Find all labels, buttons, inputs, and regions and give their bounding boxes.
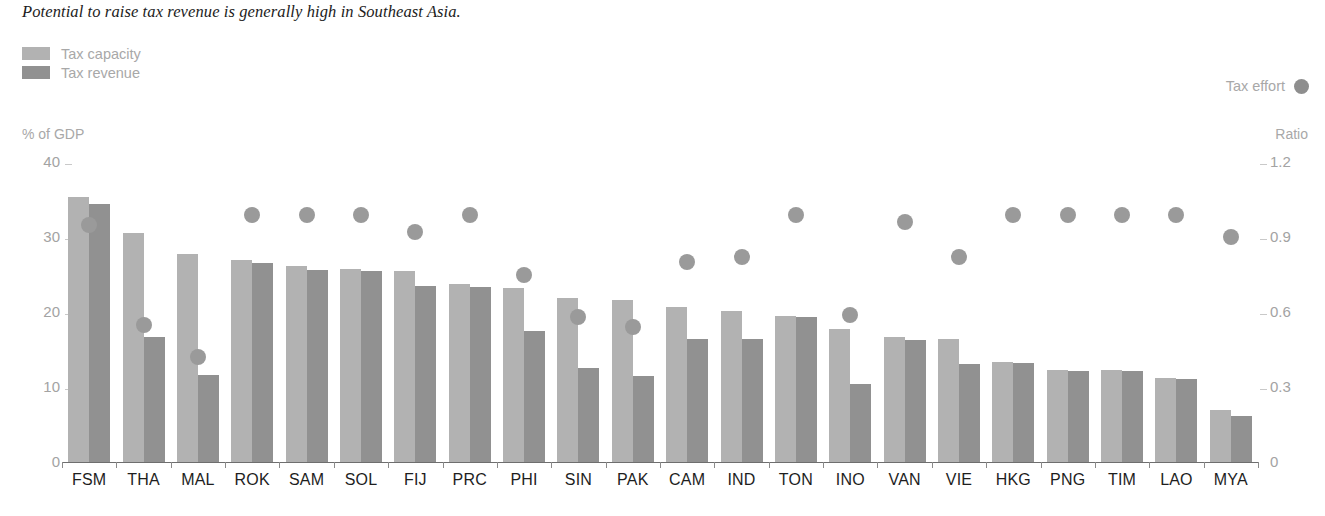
tax-effort-dot: [679, 254, 695, 270]
bar-tax-revenue: [578, 368, 599, 462]
y-axis-tick-label-right: 0: [1270, 454, 1318, 469]
y-axis-tick-label-left: 30: [20, 229, 60, 244]
x-axis-label-sam: SAM: [279, 471, 333, 489]
tax-effort-dot: [842, 307, 858, 323]
tax-effort-dot: [734, 249, 750, 265]
x-axis-tick-mark: [1258, 462, 1259, 468]
bar-tax-capacity: [1047, 370, 1068, 462]
x-axis-tick-mark: [714, 462, 715, 468]
x-axis-label-ton: TON: [769, 471, 823, 489]
bar-tax-revenue: [89, 204, 110, 462]
x-axis-tick-mark: [279, 462, 280, 468]
tax-effort-dot: [1168, 207, 1184, 223]
x-axis-tick-mark: [62, 462, 63, 468]
x-axis-label-tha: THA: [116, 471, 170, 489]
y-axis-tick-label-right: 0.9: [1270, 229, 1318, 244]
tax-effort-dot: [1005, 207, 1021, 223]
x-axis-tick-mark: [334, 462, 335, 468]
x-axis-label-phi: PHI: [497, 471, 551, 489]
x-axis-label-prc: PRC: [443, 471, 497, 489]
bar-tax-capacity: [449, 284, 470, 463]
x-axis-tick-mark: [388, 462, 389, 468]
bar-tax-revenue: [307, 270, 328, 462]
tax-effort-dot: [788, 207, 804, 223]
bar-tax-capacity: [1210, 410, 1231, 462]
y-axis-tick-mark-right: [1260, 239, 1267, 240]
bar-tax-revenue: [198, 375, 219, 462]
bar-tax-revenue: [687, 339, 708, 462]
bar-tax-capacity: [721, 311, 742, 462]
y-axis-tick-label-left: 0: [20, 454, 60, 469]
tax-effort-dot: [407, 224, 423, 240]
bar-tax-revenue: [1176, 379, 1197, 462]
x-axis-tick-mark: [986, 462, 987, 468]
x-axis-label-png: PNG: [1041, 471, 1095, 489]
bar-tax-revenue: [1231, 416, 1252, 462]
tax-effort-dot: [951, 249, 967, 265]
x-axis-tick-mark: [660, 462, 661, 468]
bar-tax-revenue: [415, 286, 436, 462]
tax-effort-dot: [516, 267, 532, 283]
x-axis-tick-mark: [225, 462, 226, 468]
x-axis-label-fij: FIJ: [388, 471, 442, 489]
x-axis-tick-mark: [1095, 462, 1096, 468]
y-axis-tick-label-left: 40: [20, 154, 60, 169]
bar-tax-revenue: [742, 339, 763, 462]
bar-tax-revenue: [959, 364, 980, 462]
bar-tax-capacity: [884, 337, 905, 462]
x-axis-label-pak: PAK: [606, 471, 660, 489]
tax-effort-dot: [190, 349, 206, 365]
bar-tax-revenue: [1013, 363, 1034, 462]
x-axis-label-fsm: FSM: [62, 471, 116, 489]
bar-tax-revenue: [905, 340, 926, 462]
y-axis-tick-label-right: 0.6: [1270, 304, 1318, 319]
y-axis-tick-mark-right: [1260, 164, 1267, 165]
y-axis-tick-label-right: 1.2: [1270, 154, 1318, 169]
x-axis-tick-mark: [1041, 462, 1042, 468]
tax-effort-dot: [244, 207, 260, 223]
y-axis-tick-mark-left: [65, 164, 72, 165]
bar-tax-revenue: [361, 271, 382, 462]
y-axis-tick-mark-right: [1260, 389, 1267, 390]
bar-tax-capacity: [1101, 370, 1122, 462]
x-axis-tick-mark: [171, 462, 172, 468]
x-axis-label-van: VAN: [877, 471, 931, 489]
bar-tax-capacity: [666, 307, 687, 462]
x-axis-label-hkg: HKG: [986, 471, 1040, 489]
x-axis-label-vie: VIE: [932, 471, 986, 489]
bar-tax-revenue: [252, 263, 273, 463]
x-axis-label-sol: SOL: [334, 471, 388, 489]
bar-tax-capacity: [123, 233, 144, 462]
x-axis-tick-mark: [769, 462, 770, 468]
tax-effort-dot: [136, 317, 152, 333]
tax-effort-dot: [462, 207, 478, 223]
chart-plot-area: 4030201001.20.90.60.30FSMTHAMALROKSAMSOL…: [0, 0, 1325, 516]
tax-effort-dot: [299, 207, 315, 223]
x-axis-tick-mark: [1204, 462, 1205, 468]
x-axis-tick-mark: [497, 462, 498, 468]
x-axis-label-rok: ROK: [225, 471, 279, 489]
y-axis-tick-mark-right: [1260, 314, 1267, 315]
bar-tax-capacity: [992, 362, 1013, 462]
bar-tax-revenue: [850, 384, 871, 462]
bar-tax-capacity: [340, 269, 361, 463]
x-axis-label-sin: SIN: [551, 471, 605, 489]
x-axis-tick-mark: [932, 462, 933, 468]
x-axis-label-mya: MYA: [1204, 471, 1258, 489]
tax-effort-dot: [1223, 229, 1239, 245]
y-axis-tick-label-left: 10: [20, 379, 60, 394]
bar-tax-revenue: [1122, 371, 1143, 462]
x-axis-tick-mark: [606, 462, 607, 468]
x-axis-label-tim: TIM: [1095, 471, 1149, 489]
tax-effort-dot: [1060, 207, 1076, 223]
x-axis-tick-mark: [443, 462, 444, 468]
bar-tax-revenue: [524, 331, 545, 462]
y-axis-tick-label-left: 20: [20, 304, 60, 319]
bar-tax-capacity: [938, 339, 959, 462]
bar-tax-capacity: [394, 271, 415, 462]
x-axis-label-ino: INO: [823, 471, 877, 489]
x-axis-tick-mark: [551, 462, 552, 468]
bar-tax-revenue: [470, 287, 491, 463]
bar-tax-capacity: [286, 266, 307, 462]
y-axis-tick-label-right: 0.3: [1270, 379, 1318, 394]
